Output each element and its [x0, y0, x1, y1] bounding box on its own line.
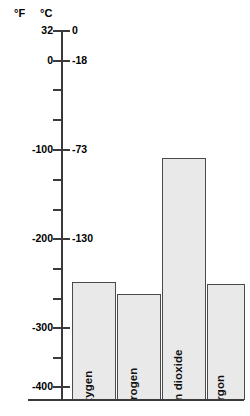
bar-label: nitrogen: [127, 368, 139, 400]
x-axis-baseline: [28, 399, 244, 401]
bar-oxygen: oxygen: [72, 282, 116, 400]
bar-label: carbon dioxide: [172, 349, 184, 400]
plot-area: oxygennitrogencarbon dioxideargon: [0, 0, 250, 416]
bar-carbon-dioxide: carbon dioxide: [162, 158, 206, 400]
bar-nitrogen: nitrogen: [117, 294, 161, 400]
temperature-bar-chart: °F °C 3200-18-100-73-200-130-300-184-400…: [0, 0, 250, 416]
bar-label: oxygen: [82, 371, 94, 400]
bar-label: argon: [214, 375, 226, 400]
bar-argon: argon: [207, 284, 245, 400]
